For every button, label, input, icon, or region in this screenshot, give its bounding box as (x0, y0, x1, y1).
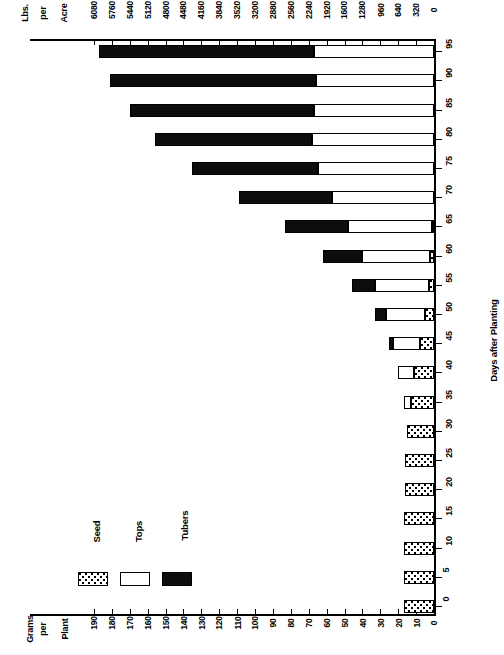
legend-label-tops: Tops (133, 521, 144, 542)
bar-segment-tops (318, 162, 434, 175)
bar-segment-seed (420, 337, 434, 350)
bar-segment-seed (405, 454, 434, 467)
lbs-tick (327, 39, 328, 45)
grams-tick-value: 0 (429, 621, 439, 626)
bar-segment-seed (425, 308, 434, 321)
legend-swatch-tubers (162, 572, 192, 586)
bar-segment-tubers (285, 220, 348, 233)
lbs-tick (380, 39, 381, 45)
days-axis-title-label: Days after Planting (488, 299, 499, 381)
lbs-tick-value: 0 (429, 8, 439, 13)
bar-segment-tubers (99, 45, 314, 58)
bar-segment-tubers (375, 308, 386, 321)
grams-title-line-1: Grams (25, 615, 35, 643)
lbs-tick (416, 39, 417, 45)
bar-segment-seed (405, 483, 434, 496)
bar-row (0, 337, 482, 350)
bar-segment-tops (404, 396, 411, 409)
lbs-tick-label: 0 (418, 5, 450, 35)
bar-segment-seed (404, 542, 434, 555)
bar-row (0, 454, 482, 467)
days-axis-line (434, 39, 436, 616)
grams-tick-label: 0 (418, 618, 450, 648)
bar-segment-seed (404, 571, 434, 584)
bar-row (0, 600, 482, 613)
bar-segment-seed (429, 279, 434, 292)
bar-row (0, 162, 482, 175)
bar-segment-tops (316, 74, 434, 87)
lbs-tick (148, 39, 149, 45)
lbs-tick (237, 39, 238, 45)
grams-title-line-2: per (38, 622, 48, 635)
lbs-tick (362, 39, 363, 45)
lbs-tick (255, 39, 256, 45)
legend-label-tubers: Tubers (179, 511, 190, 541)
bar-row (0, 308, 482, 321)
bar-segment-tubers (323, 250, 362, 263)
bar-row (0, 74, 482, 87)
bar-row (0, 133, 482, 146)
bar-segment-tops (375, 279, 429, 292)
lbs-tick (130, 39, 131, 45)
lbs-tick (112, 39, 113, 45)
bar-segment-seed (430, 250, 434, 263)
lbs-title-line-2: per (38, 6, 48, 19)
bar-segment-tubers (110, 74, 316, 87)
lbs-tick (434, 39, 435, 45)
bar-segment-tubers (389, 337, 393, 350)
lbs-title-line-1: Lbs. (20, 4, 30, 22)
lbs-tick (309, 39, 310, 45)
bar-segment-tops (314, 104, 434, 117)
bar-row (0, 483, 482, 496)
bar-row (0, 542, 482, 555)
grams-per-plant-axis-title: Grams per Plant (14, 618, 84, 655)
bar-row (0, 512, 482, 525)
lbs-per-acre-axis-line (30, 39, 435, 41)
legend-label-seed: Seed (91, 521, 102, 543)
bar-segment-seed (407, 425, 434, 438)
bar-segment-tubers (239, 191, 332, 204)
bar-segment-tops (348, 220, 432, 233)
bar-segment-tops (362, 250, 430, 263)
bar-segment-tubers (352, 279, 375, 292)
bar-row (0, 250, 482, 263)
bar-segment-tubers (192, 162, 317, 175)
lbs-tick (291, 39, 292, 45)
bar-row (0, 571, 482, 584)
bar-segment-tops (314, 45, 434, 58)
bar-row (0, 104, 482, 117)
bar-segment-seed (404, 512, 434, 525)
bar-segment-seed (414, 366, 434, 379)
lbs-tick (219, 39, 220, 45)
bar-row (0, 191, 482, 204)
bar-segment-seed (404, 600, 434, 613)
bar-row (0, 396, 482, 409)
lbs-tick (345, 39, 346, 45)
bar-row (0, 366, 482, 379)
bar-segment-seed (411, 396, 434, 409)
legend-swatch-tops (120, 572, 150, 586)
bar-row (0, 45, 482, 58)
lbs-tick (183, 39, 184, 45)
lbs-tick (201, 39, 202, 45)
lbs-tick (398, 39, 399, 45)
lbs-tick (166, 39, 167, 45)
bar-segment-tops (398, 366, 414, 379)
bar-segment-tops (332, 191, 434, 204)
grams-title-line-3: Plant (60, 618, 70, 639)
bar-segment-tubers (130, 104, 314, 117)
lbs-per-acre-axis-title: Lbs. per Acre (14, 2, 76, 42)
bar-row (0, 220, 482, 233)
bar-row (0, 425, 482, 438)
lbs-tick (94, 39, 95, 45)
bar-row (0, 279, 482, 292)
bar-segment-tops (312, 133, 434, 146)
legend-swatch-seed (78, 572, 108, 586)
bar-segment-tubers (155, 133, 312, 146)
bar-segment-tops (393, 337, 420, 350)
bar-segment-seed (432, 220, 434, 233)
lbs-title-line-3: Acre (59, 3, 69, 22)
legend: Seed Tops Tubers (78, 512, 198, 602)
lbs-tick (273, 39, 274, 45)
